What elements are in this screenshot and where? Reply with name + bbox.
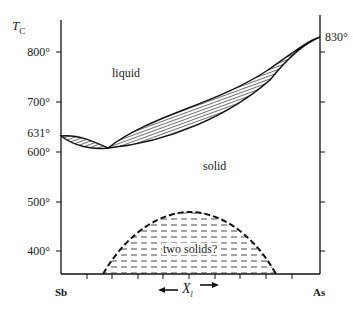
x-axis-label: Xl bbox=[182, 283, 193, 301]
left-two-phase-lens bbox=[61, 136, 108, 149]
y-tick-700: 700° bbox=[4, 96, 50, 108]
sb-melting-label: 631° bbox=[4, 127, 50, 139]
right-two-phase-lens bbox=[108, 37, 320, 148]
y-tick-500: 500° bbox=[4, 196, 50, 208]
as-melting-label: 830° bbox=[325, 31, 348, 43]
y-axis-label: TC bbox=[12, 20, 25, 37]
x-endpoint-sb: Sb bbox=[55, 286, 67, 298]
y-tick-400: 400° bbox=[4, 245, 50, 257]
x-endpoint-as: As bbox=[313, 286, 325, 298]
y-tick-800: 800° bbox=[4, 46, 50, 58]
region-liquid: liquid bbox=[112, 67, 140, 79]
y-tick-600: 600° bbox=[4, 146, 50, 158]
region-two-solids: two solids? bbox=[162, 243, 218, 255]
region-solid: solid bbox=[203, 160, 226, 172]
phase-diagram-canvas bbox=[0, 0, 353, 310]
